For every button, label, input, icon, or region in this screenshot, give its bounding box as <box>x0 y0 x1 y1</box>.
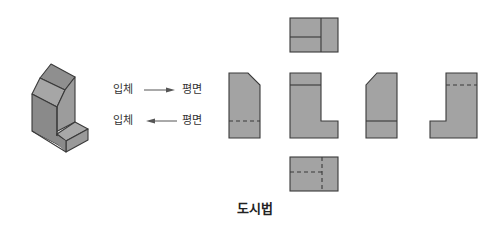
solid-label-1: 입체 <box>113 84 133 96</box>
arrow-to-solid <box>146 119 177 124</box>
plane-label-2: 평면 <box>182 115 202 127</box>
left-side-view <box>229 73 260 138</box>
diagram-caption: 도시법 <box>0 201 503 217</box>
solid-label-2: 입체 <box>113 115 133 127</box>
front-view <box>290 73 338 138</box>
right-side-view <box>366 73 397 138</box>
rear-view <box>430 73 477 138</box>
bottom-view <box>290 157 338 191</box>
projection-diagram: 입체 평면 입체 평면 도시법 <box>0 0 503 225</box>
isometric-object <box>32 64 88 152</box>
plane-label-1: 평면 <box>182 84 202 96</box>
diagram-graphics <box>0 0 503 225</box>
top-view <box>290 18 338 52</box>
arrow-to-plane <box>144 88 175 93</box>
